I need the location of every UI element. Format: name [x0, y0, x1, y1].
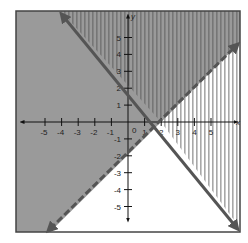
y-tick-label: 1	[117, 101, 122, 110]
x-tick-label: -3	[74, 128, 82, 137]
y-tick-label: -1	[114, 135, 122, 144]
x-tick-label: 4	[192, 128, 197, 137]
inequality-graph: -5 -4 -3 -2 -1 1 2 3 4 5 5 4 3 2 1 -1 -2…	[0, 0, 248, 243]
x-tick-label: -4	[57, 128, 65, 137]
x-tick-label: 5	[209, 128, 214, 137]
y-tick-label: 4	[117, 50, 122, 59]
y-tick-label: 3	[117, 67, 122, 76]
y-tick-label: -5	[114, 203, 122, 212]
x-tick-label: -5	[40, 128, 48, 137]
x-tick-label: -2	[90, 128, 98, 137]
origin-label: 0	[132, 126, 137, 135]
x-tick-label: 3	[176, 128, 181, 137]
y-tick-label: -4	[114, 186, 122, 195]
y-tick-label: -2	[114, 152, 122, 161]
y-tick-label: 5	[117, 34, 122, 43]
y-tick-label: -3	[114, 169, 122, 178]
